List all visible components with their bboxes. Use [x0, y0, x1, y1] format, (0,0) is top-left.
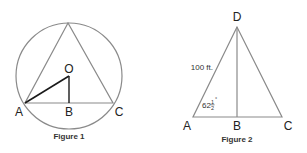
- angle-denominator: 2: [211, 105, 214, 111]
- label-C: C: [284, 119, 293, 133]
- label-B: B: [233, 119, 241, 133]
- label-A: A: [183, 119, 191, 133]
- label-D: D: [233, 10, 242, 24]
- figure-2: D A B C 100 ft. 62 1 2 ° Figure 2: [183, 10, 293, 144]
- figure-1-caption: Figure 1: [53, 132, 85, 141]
- label-C: C: [115, 105, 124, 119]
- diagram-canvas: O A B C Figure 1 D A B C 100 ft. 62 1 2 …: [0, 0, 307, 153]
- label-O: O: [64, 62, 73, 76]
- side-length-label: 100 ft.: [191, 63, 213, 72]
- figure-1: O A B C Figure 1: [15, 23, 124, 141]
- angle-numerator: 1: [211, 99, 214, 105]
- angle-label: 62 1 2 °: [202, 96, 217, 111]
- degree-symbol: °: [215, 96, 217, 102]
- figure-2-caption: Figure 2: [221, 135, 253, 144]
- label-A: A: [15, 105, 23, 119]
- label-B: B: [65, 105, 73, 119]
